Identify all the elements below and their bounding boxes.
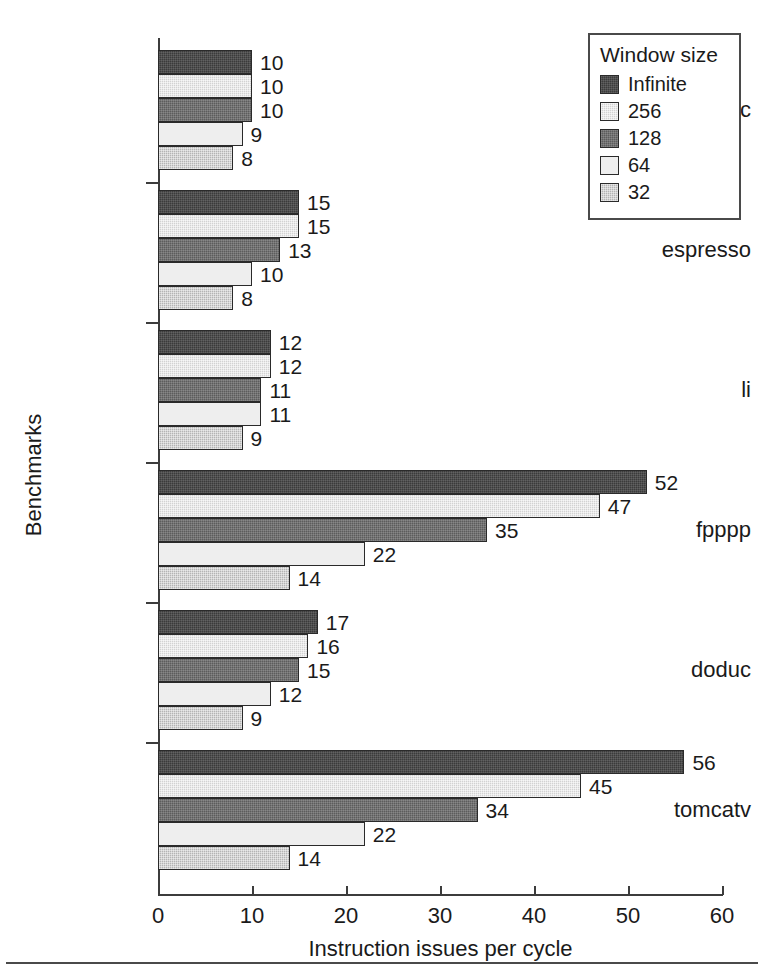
x-axis-tick-label: 20 <box>334 903 358 929</box>
bar-row: 14 <box>158 846 722 870</box>
bar <box>158 822 365 846</box>
bar-row: 11 <box>158 402 722 426</box>
category-separator-tick <box>146 742 158 744</box>
bar <box>158 122 243 146</box>
bar-row: 14 <box>158 566 722 590</box>
x-axis-tick <box>722 886 724 895</box>
bar-value-label: 8 <box>241 148 253 169</box>
bar-value-label: 56 <box>692 752 715 773</box>
legend-entry: 64 <box>600 154 729 177</box>
bar-row: 22 <box>158 822 722 846</box>
x-axis-tick <box>440 886 442 895</box>
x-axis-tick <box>628 886 630 895</box>
bar-value-label: 10 <box>260 52 283 73</box>
bar-value-label: 9 <box>251 428 263 449</box>
bar-row: 45 <box>158 774 722 798</box>
legend-entry-label: Infinite <box>628 73 687 96</box>
bar <box>158 330 271 354</box>
bar <box>158 470 647 494</box>
bar-row: 35 <box>158 518 722 542</box>
bar-value-label: 14 <box>298 568 321 589</box>
bar <box>158 262 252 286</box>
bar-value-label: 13 <box>288 240 311 261</box>
y-axis-title: Benchmarks <box>21 395 47 555</box>
bar-value-label: 8 <box>241 288 253 309</box>
bar <box>158 74 252 98</box>
bar-row: 15 <box>158 658 722 682</box>
bar-value-label: 9 <box>251 708 263 729</box>
bar-row: 11 <box>158 378 722 402</box>
legend-entry-label: 256 <box>628 100 661 123</box>
x-axis-tick-label: 60 <box>710 903 734 929</box>
bar-row: 9 <box>158 426 722 450</box>
bar-row: 47 <box>158 494 722 518</box>
x-axis-tick-label: 10 <box>240 903 264 929</box>
legend-entry-label: 64 <box>628 154 650 177</box>
bar <box>158 846 290 870</box>
bar <box>158 774 581 798</box>
bar <box>158 50 252 74</box>
bar <box>158 214 299 238</box>
bar-value-label: 12 <box>279 332 302 353</box>
bar-row: 12 <box>158 330 722 354</box>
bar-row: 17 <box>158 610 722 634</box>
legend-entry: Infinite <box>600 73 729 96</box>
legend-entry: 32 <box>600 181 729 204</box>
bar-value-label: 16 <box>316 636 339 657</box>
bar-value-label: 10 <box>260 76 283 97</box>
bar-group: 121211119 <box>0 330 765 450</box>
bar-value-label: 9 <box>251 124 263 145</box>
bar-row: 34 <box>158 798 722 822</box>
bar <box>158 518 487 542</box>
legend-entries: Infinite2561286432 <box>600 73 729 204</box>
bar-row: 16 <box>158 634 722 658</box>
bar <box>158 566 290 590</box>
bar <box>158 798 478 822</box>
bar <box>158 98 252 122</box>
bar-group: 5247352214 <box>0 470 765 590</box>
bar <box>158 706 243 730</box>
bar <box>158 378 261 402</box>
bar-value-label: 22 <box>373 544 396 565</box>
bar-chart-figure: 1010109815151310812121111952473522141716… <box>0 0 765 980</box>
bar-row: 13 <box>158 238 722 262</box>
bar <box>158 286 233 310</box>
legend-entry: 128 <box>600 127 729 150</box>
bar-value-label: 10 <box>260 100 283 121</box>
bar <box>158 146 233 170</box>
bar-row: 52 <box>158 470 722 494</box>
bar <box>158 658 299 682</box>
category-label-tomcatv: tomcatv <box>674 797 751 823</box>
bar-value-label: 11 <box>269 380 291 401</box>
x-axis-tick <box>534 886 536 895</box>
bar-row: 8 <box>158 286 722 310</box>
legend-swatch-icon <box>600 102 619 121</box>
bar-value-label: 45 <box>589 776 612 797</box>
category-separator-tick <box>146 322 158 324</box>
category-label-doduc: doduc <box>691 657 751 683</box>
bar-row: 9 <box>158 706 722 730</box>
bar-value-label: 35 <box>495 520 518 541</box>
legend-swatch-icon <box>600 129 619 148</box>
bar-value-label: 15 <box>307 216 330 237</box>
bar <box>158 750 684 774</box>
bar-row: 22 <box>158 542 722 566</box>
bar <box>158 494 600 518</box>
bar <box>158 542 365 566</box>
bar <box>158 426 243 450</box>
bar <box>158 402 261 426</box>
bar-value-label: 17 <box>326 612 349 633</box>
x-axis-tick <box>346 886 348 895</box>
x-axis-tick-label: 50 <box>616 903 640 929</box>
bar-value-label: 52 <box>655 472 678 493</box>
bar <box>158 634 308 658</box>
legend-box: Window size Infinite2561286432 <box>588 33 741 220</box>
legend-swatch-icon <box>600 183 619 202</box>
bar-value-label: 22 <box>373 824 396 845</box>
legend-entry-label: 32 <box>628 181 650 204</box>
category-separator-tick <box>146 462 158 464</box>
category-label-li: li <box>741 377 751 403</box>
bar-row: 56 <box>158 750 722 774</box>
legend-title: Window size <box>600 43 729 67</box>
bar-row: 10 <box>158 262 722 286</box>
